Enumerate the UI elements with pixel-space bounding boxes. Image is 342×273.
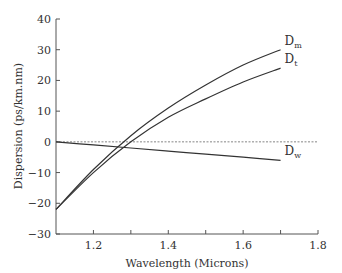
y-tick-label: 40 xyxy=(37,13,51,26)
dispersion-chart: −30−20−100102030401.21.41.61.8 DmDtDw Wa… xyxy=(0,0,342,273)
y-tick-label: 10 xyxy=(37,105,51,118)
y-tick-label: −20 xyxy=(28,197,51,210)
y-axis-label: Dispersion (ps/km.nm) xyxy=(12,63,25,189)
x-tick-label: 1.4 xyxy=(160,239,178,252)
x-tick-label: 1.2 xyxy=(85,239,103,252)
series-group: DmDtDw xyxy=(56,34,302,210)
series-label-dm: Dm xyxy=(285,34,303,50)
y-tick-label: 20 xyxy=(37,74,51,87)
x-tick-label: 1.8 xyxy=(309,239,327,252)
series-line-dw xyxy=(56,142,281,160)
y-tick-label: 0 xyxy=(44,136,51,149)
series-line-dm xyxy=(56,50,281,210)
series-line-dt xyxy=(56,68,281,209)
axes: −30−20−100102030401.21.41.61.8 xyxy=(28,13,327,252)
y-tick-label: −30 xyxy=(28,228,51,241)
x-axis-label: Wavelength (Microns) xyxy=(126,257,249,270)
x-tick-label: 1.6 xyxy=(234,239,252,252)
y-tick-label: 30 xyxy=(37,44,51,57)
y-tick-label: −10 xyxy=(28,167,51,180)
series-label-dw: Dw xyxy=(285,144,302,160)
series-label-dt: Dt xyxy=(285,52,299,68)
